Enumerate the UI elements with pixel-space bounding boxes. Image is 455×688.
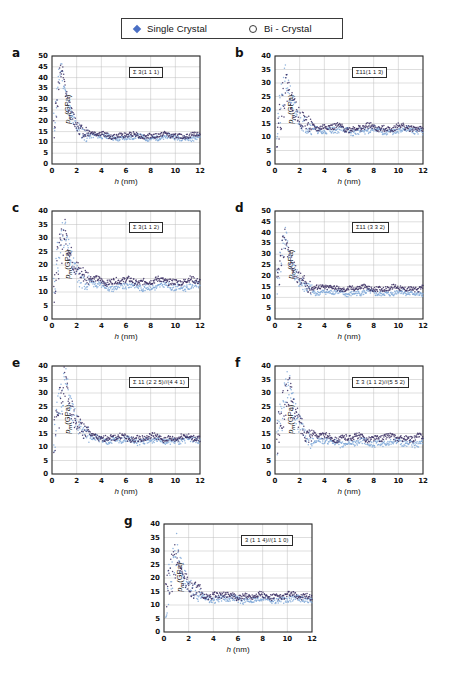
plot-area-c: [10, 199, 208, 327]
series-single-crystal: [53, 63, 201, 142]
filled-diamond-icon: [133, 24, 141, 32]
x-axis-label-e: h (nm): [52, 487, 200, 496]
chart-panel-c: cpm(GPa)h (nm)0510152025303540024681012Σ…: [10, 199, 210, 345]
series-bi-crystal: [53, 65, 201, 140]
chart-panel-b: bpm(GPa)h (nm)0510152025303540024681012Σ…: [233, 44, 433, 190]
plot-area-d: [233, 199, 431, 327]
plot-area-a: [10, 44, 208, 172]
x-axis-label-g: h (nm): [164, 645, 312, 654]
chart-panel-e: epm(GPa)h (nm)0510152025303540024681012Σ…: [10, 354, 210, 500]
x-axis-label-f: h (nm): [275, 487, 423, 496]
gb-designation-c: Σ 3(1 1 2): [129, 222, 163, 233]
gb-designation-d: Σ11 (3 3 2): [352, 222, 389, 233]
x-axis-label-c: h (nm): [52, 332, 200, 341]
plot-area-g: [122, 512, 320, 640]
gb-designation-g: 3 (1 1 4)//(1 1 0): [241, 535, 293, 546]
chart-panel-g: gpm(GPa)h (nm)05101520253035400246810123…: [122, 512, 322, 658]
chart-panel-f: fpm(GPa)h (nm)0510152025303540024681012Σ…: [233, 354, 433, 500]
chart-panel-a: apm(GPa)h (nm)05101520253035404550024681…: [10, 44, 210, 190]
series-bi-crystal: [276, 74, 424, 148]
series-bi-crystal: [276, 229, 424, 294]
open-circle-icon: [249, 25, 257, 33]
plot-area-e: [10, 354, 208, 482]
series-single-crystal: [53, 221, 201, 293]
legend: Single Crystal Bi - Crystal: [121, 18, 343, 39]
gb-designation-a: Σ 3(1 1 1): [129, 67, 163, 78]
x-axis-label-d: h (nm): [275, 332, 423, 341]
gb-designation-e: Σ 11 (2 2 5)//(4 4 1): [129, 377, 189, 388]
x-axis-label-a: h (nm): [52, 177, 200, 186]
x-axis-label-b: h (nm): [275, 177, 423, 186]
legend-entry-single-crystal: Single Crystal: [134, 23, 207, 34]
gb-designation-f: Σ 3 (1 1 2)//(5 5 2): [352, 377, 409, 388]
legend-label-bi-crystal: Bi - Crystal: [264, 23, 312, 34]
plot-area-f: [233, 354, 431, 482]
gb-designation-b: Σ11(1 1 3): [352, 67, 387, 78]
chart-panel-d: dpm(GPa)h (nm)05101520253035404550024681…: [233, 199, 433, 345]
plot-area-b: [233, 44, 431, 172]
series-bi-crystal: [165, 544, 313, 607]
series-bi-crystal: [53, 219, 201, 303]
legend-label-single-crystal: Single Crystal: [147, 23, 207, 34]
legend-entry-bi-crystal: Bi - Crystal: [249, 23, 312, 34]
